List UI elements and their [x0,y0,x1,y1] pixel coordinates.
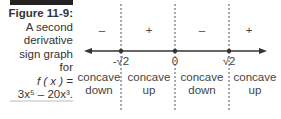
point-sqrt2: √2 [217,55,241,68]
region-1-label: concave down [76,71,122,97]
sign-region-1: – [92,24,112,37]
region-4-label: concave up [231,71,279,97]
region-3-label: concave down [178,71,226,97]
region-2-label: concave up [125,71,173,97]
point-zero: 0 [165,55,185,68]
sign-region-2: + [139,24,159,37]
sign-region-3: – [192,24,212,37]
sign-region-4: + [239,24,259,37]
point-neg-sqrt2: -√2 [106,55,136,68]
